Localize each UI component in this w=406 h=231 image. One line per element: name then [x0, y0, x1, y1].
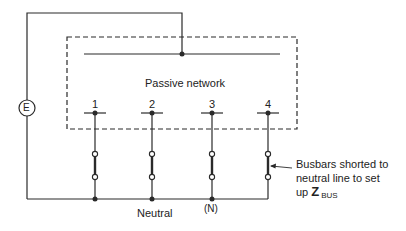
- neutral-label: Neutral: [137, 208, 172, 219]
- source-label: E: [23, 103, 30, 113]
- busbar-label-3: 3: [209, 99, 215, 110]
- annotation-line-2: neutral line to set: [296, 171, 388, 185]
- zbus-symbol: Z: [311, 184, 319, 199]
- junction-dots: [93, 52, 271, 202]
- switch-contacts: [92, 151, 270, 179]
- busbar-label-4: 4: [265, 99, 271, 110]
- network-label: Passive network: [145, 78, 225, 89]
- busbar-label-2: 2: [149, 99, 155, 110]
- annotation-line-1: Busbars shorted to: [296, 157, 388, 171]
- zbus-subscript: BUS: [321, 191, 337, 200]
- zbus-annotation: Busbars shorted to neutral line to set u…: [296, 157, 388, 203]
- annotation-arrow-icon: [270, 164, 276, 169]
- annotation-line-3: up ZBUS: [296, 185, 388, 203]
- neutral-node-label: (N): [204, 204, 218, 214]
- busbar-label-1: 1: [92, 99, 98, 110]
